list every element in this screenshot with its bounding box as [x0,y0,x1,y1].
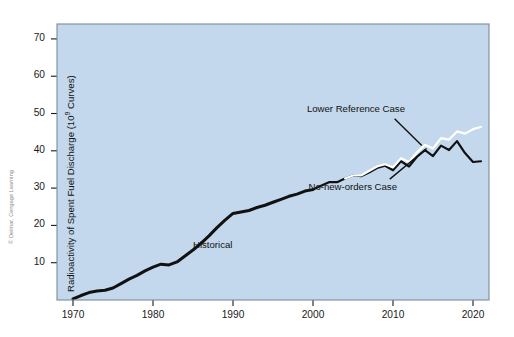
x-tick-label: 1990 [213,309,253,320]
x-tick-label: 2010 [373,309,413,320]
figure-container: © Delmar, Cengage Learning Radioactivity… [0,0,514,337]
y-tick-label: 20 [0,218,45,229]
x-tick-label: 2000 [293,309,333,320]
y-tick-label: 70 [0,32,45,43]
y-tick-label: 60 [0,69,45,80]
y-axis-label: Radioactivity of Spent Fuel Discharge (1… [64,75,76,292]
y-tick-label: 30 [0,181,45,192]
y-tick-label: 10 [0,256,45,267]
x-tick-label: 2020 [453,309,493,320]
plot-area-background [57,24,489,300]
y-tick-label: 40 [0,144,45,155]
x-tick-label: 1980 [133,309,173,320]
annotation-historical: Historical [193,239,232,250]
annotation-lower-reference-case: Lower Reference Case [307,103,405,114]
annotation-no-new-orders-case: No-new-orders Case [308,181,397,192]
x-tick-label: 1970 [53,309,93,320]
radioactivity-spent-fuel-chart [0,0,514,337]
y-tick-label: 50 [0,107,45,118]
